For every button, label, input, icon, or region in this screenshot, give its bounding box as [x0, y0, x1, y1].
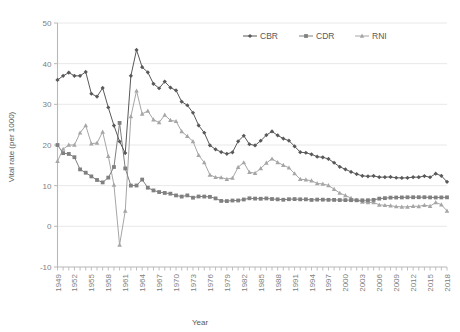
x-tick-label-1982: 1982	[240, 273, 249, 291]
point-cdr-1957	[101, 181, 105, 185]
point-cdr-1994	[310, 198, 314, 202]
point-cdr-1985	[259, 197, 263, 201]
x-tick-label-2006: 2006	[375, 273, 384, 291]
x-tick-label-1979: 1979	[223, 273, 232, 291]
point-cdr-1971	[180, 195, 184, 199]
point-cdr-1950	[61, 151, 65, 155]
point-cdr-2009	[394, 196, 398, 200]
point-cdr-2003	[360, 198, 364, 202]
y-tick-label-30: 30	[43, 100, 52, 109]
point-cdr-1991	[293, 197, 297, 201]
x-tick-label-2012: 2012	[409, 273, 418, 291]
x-tick-label-2015: 2015	[426, 273, 435, 291]
point-cdr-1962	[129, 184, 133, 188]
y-tick-label-20: 20	[43, 141, 52, 150]
point-cdr-1951	[67, 152, 71, 156]
point-cdr-1958	[106, 176, 110, 180]
point-cdr-1999	[338, 198, 342, 202]
point-cdr-2008	[389, 196, 393, 200]
point-cdr-2010	[400, 196, 404, 200]
point-cdr-1970	[174, 194, 178, 198]
point-cdr-1990	[287, 197, 291, 201]
point-cdr-1949	[56, 143, 60, 147]
point-cdr-1954	[84, 171, 88, 175]
point-cdr-2017	[439, 196, 443, 200]
point-cdr-1987	[270, 197, 274, 201]
point-cdr-1988	[276, 197, 280, 201]
x-tick-label-1964: 1964	[138, 273, 147, 291]
point-cdr-1976	[208, 195, 212, 199]
y-axis-title: Vital rate (per 1000)	[7, 111, 16, 182]
x-tick-label-1955: 1955	[87, 273, 96, 291]
x-tick-label-1994: 1994	[308, 273, 317, 291]
point-cdr-1975	[202, 195, 206, 199]
x-tick-label-1949: 1949	[54, 273, 63, 291]
x-tick-label-1976: 1976	[206, 273, 215, 291]
x-axis-title: Year	[192, 318, 209, 327]
legend-label-cdr: CDR	[316, 31, 334, 41]
x-tick-label-1988: 1988	[274, 273, 283, 291]
point-cdr-1965	[146, 186, 150, 190]
x-tick-label-1973: 1973	[189, 273, 198, 291]
point-cdr-1996	[321, 198, 325, 202]
point-cdr-1998	[332, 198, 336, 202]
point-cdr-1968	[163, 191, 167, 195]
x-tick-label-1952: 1952	[70, 273, 79, 291]
x-tick-label-1991: 1991	[291, 273, 300, 291]
y-tick-label-0: 0	[47, 222, 52, 231]
point-cdr-1952	[73, 155, 77, 159]
point-cdr-1960	[118, 121, 122, 125]
x-tick-label-2018: 2018	[443, 273, 452, 291]
point-cdr-1993	[304, 197, 308, 201]
x-tick-label-1967: 1967	[155, 273, 164, 291]
y-tick-label-10: 10	[43, 182, 52, 191]
point-cdr-2006	[377, 197, 381, 201]
point-cdr-1984	[253, 197, 257, 201]
point-cdr-2014	[423, 195, 427, 199]
point-cdr-1955	[89, 174, 93, 178]
chart-container: -1001020304050 1949195219551958196119641…	[0, 0, 460, 332]
point-cdr-1956	[95, 178, 99, 182]
point-cdr-2015	[428, 196, 432, 200]
point-cdr-1969	[169, 192, 173, 196]
point-cdr-1967	[157, 190, 161, 194]
point-cdr-1980	[231, 199, 235, 203]
point-cdr-2016	[434, 196, 438, 200]
point-cdr-1972	[185, 193, 189, 197]
point-cdr-2007	[383, 196, 387, 200]
point-cdr-1974	[197, 195, 201, 199]
point-cdr-2002	[355, 198, 359, 202]
point-cdr-2013	[417, 195, 421, 199]
point-cdr-1997	[327, 198, 331, 202]
x-tick-label-2000: 2000	[341, 273, 350, 291]
point-cdr-2011	[406, 195, 410, 199]
point-cdr-1959	[112, 165, 116, 169]
point-cdr-1995	[315, 198, 319, 202]
x-tick-label-1985: 1985	[257, 273, 266, 291]
legend-label-cbr: CBR	[260, 31, 278, 41]
x-tick-label-1997: 1997	[324, 273, 333, 291]
x-tick-label-2009: 2009	[392, 273, 401, 291]
y-tick-label-50: 50	[43, 19, 52, 28]
point-cdr-1964	[140, 178, 144, 182]
point-cdr-1983	[248, 196, 252, 200]
x-tick-label-1961: 1961	[121, 273, 130, 291]
point-cdr-1973	[191, 196, 195, 200]
point-cdr-1992	[298, 197, 302, 201]
y-tick-label--10: -10	[40, 263, 52, 272]
point-cdr-1986	[264, 197, 268, 201]
point-cdr-2001	[349, 198, 353, 202]
y-tick-label-40: 40	[43, 60, 52, 69]
x-tick-label-1958: 1958	[104, 273, 113, 291]
point-cdr-1981	[236, 199, 240, 203]
point-cdr-1979	[225, 199, 229, 203]
point-cdr-1966	[152, 189, 156, 193]
legend-marker-cdr	[304, 34, 308, 38]
point-cdr-1953	[78, 168, 82, 172]
point-cdr-1989	[281, 198, 285, 202]
point-cdr-2005	[372, 198, 376, 202]
point-cdr-1977	[214, 197, 218, 201]
point-cdr-1982	[242, 198, 246, 202]
x-tick-label-1970: 1970	[172, 273, 181, 291]
legend-label-rni: RNI	[372, 31, 387, 41]
